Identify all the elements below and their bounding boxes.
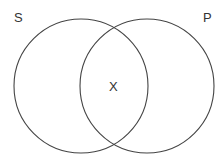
set-s-label: S xyxy=(14,11,23,24)
set-p-circle xyxy=(80,19,214,153)
set-s-circle xyxy=(14,19,148,153)
intersection-label: X xyxy=(109,80,118,93)
set-p-label: P xyxy=(203,11,212,24)
